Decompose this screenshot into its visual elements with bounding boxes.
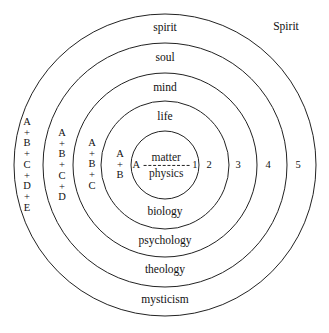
ring-bottom-label-mysticism: mysticism — [141, 294, 188, 306]
diagram-canvas: Spirit spirit soul mind life biology psy… — [0, 0, 329, 333]
core-numerator-matter: matter — [150, 151, 181, 163]
ring-top-label-life: life — [157, 111, 172, 123]
ring-number-4: 4 — [265, 160, 270, 171]
ring-top-label-mind: mind — [153, 82, 177, 94]
core-left-letter: A — [133, 160, 141, 171]
sum-token: C — [88, 181, 95, 192]
core-denominator-physics: physics — [148, 167, 185, 179]
ring-top-label-soul: soul — [155, 52, 174, 64]
core-group: A matter physics 1 — [133, 151, 198, 179]
sum-column-ring-3: A + B + C — [88, 138, 96, 192]
ring-number-3: 3 — [235, 160, 240, 171]
sum-column-ring-2: A + B — [116, 149, 124, 181]
ring-bottom-label-psychology: psychology — [138, 235, 191, 247]
sum-column-ring-4: A + B + C + D — [58, 128, 66, 203]
core-dashed-divider — [143, 165, 189, 166]
sum-token: B — [116, 170, 123, 181]
core-right-number: 1 — [192, 160, 197, 171]
ring-top-label-spirit: spirit — [153, 22, 177, 34]
sum-token: C — [23, 160, 30, 171]
sum-token: E — [24, 202, 30, 213]
sum-token: D — [58, 192, 66, 203]
ring-number-2: 2 — [206, 160, 211, 171]
ring-number-5: 5 — [295, 160, 300, 171]
ring-bottom-label-biology: biology — [147, 206, 182, 218]
outside-title-spirit: Spirit — [273, 21, 299, 33]
ring-bottom-label-theology: theology — [145, 264, 185, 276]
core-fraction: matter physics — [143, 151, 189, 179]
sum-column-ring-5: A + B + C + D + E — [23, 117, 31, 213]
sum-token: C — [58, 170, 65, 181]
